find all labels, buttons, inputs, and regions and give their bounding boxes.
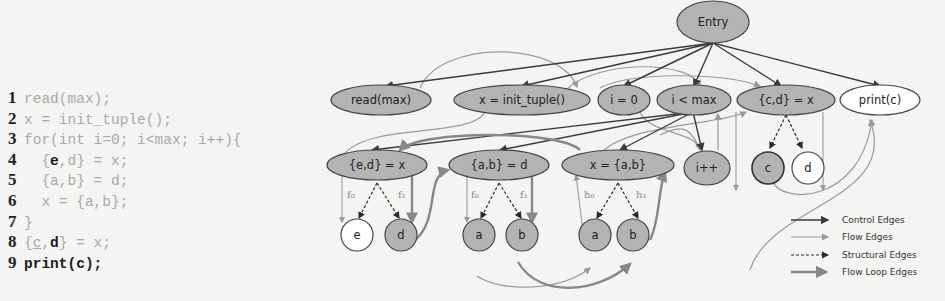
node-leaf-d[interactable]: d: [385, 219, 417, 251]
legend-flow-loop-edges: Flow Loop Edges: [791, 267, 917, 277]
svg-text:a: a: [591, 228, 598, 242]
svg-text:x = {a,b}: x = {a,b}: [590, 158, 646, 172]
legend: Control Edges Flow Edges Structural Edge…: [791, 215, 917, 277]
svg-text:{a,b} = d: {a,b} = d: [471, 158, 528, 172]
node-i-lt-max[interactable]: i < max: [657, 85, 731, 115]
node-leaf-b2[interactable]: b: [617, 219, 649, 251]
svg-text:{c,d} = x: {c,d} = x: [758, 93, 814, 107]
svg-text:h₀: h₀: [584, 189, 594, 200]
svg-text:Structural Edges: Structural Edges: [842, 250, 917, 260]
svg-text:f₁: f₁: [520, 189, 528, 200]
legend-flow-edges: Flow Edges: [791, 232, 893, 242]
svg-text:Flow Edges: Flow Edges: [842, 232, 893, 242]
node-ed-eq-x[interactable]: {e,d} = x: [327, 150, 427, 180]
node-i-inc[interactable]: i++: [684, 151, 730, 185]
legend-structural-edges: Structural Edges: [791, 250, 917, 260]
node-leaf-a2[interactable]: a: [579, 219, 611, 251]
svg-text:i = 0: i = 0: [610, 93, 637, 107]
legend-control-edges: Control Edges: [791, 215, 905, 225]
svg-text:print(c): print(c): [859, 93, 901, 107]
svg-text:Control Edges: Control Edges: [842, 215, 905, 225]
svg-text:Entry: Entry: [698, 15, 729, 29]
node-i-eq-0[interactable]: i = 0: [598, 85, 650, 115]
svg-text:b: b: [518, 228, 525, 242]
svg-text:d: d: [397, 228, 404, 242]
svg-text:b: b: [629, 228, 636, 242]
graph-diagram: f₀ f₁ f₀ f₁ h₀ h₁ f₀ f₁ Entry read(max) …: [0, 0, 945, 301]
node-print-c[interactable]: print(c): [840, 85, 920, 115]
svg-text:f₁: f₁: [398, 189, 406, 200]
node-ab-eq-d[interactable]: {a,b} = d: [449, 150, 549, 180]
svg-text:Flow Loop Edges: Flow Loop Edges: [842, 267, 917, 277]
svg-text:h₁: h₁: [636, 189, 646, 200]
svg-text:{e,d} = x: {e,d} = x: [349, 158, 406, 172]
svg-text:f₀: f₀: [471, 189, 479, 200]
svg-text:f₀: f₀: [347, 189, 355, 200]
node-read-max[interactable]: read(max): [331, 85, 431, 115]
node-leaf-b1[interactable]: b: [506, 219, 538, 251]
node-x-init-tuple[interactable]: x = init_tuple(): [454, 85, 590, 115]
svg-text:x = init_tuple(): x = init_tuple(): [479, 93, 565, 107]
svg-text:i < max: i < max: [671, 93, 716, 107]
svg-text:read(max): read(max): [351, 93, 411, 107]
node-leaf-d-right[interactable]: d: [792, 152, 824, 184]
svg-text:c: c: [765, 161, 771, 175]
svg-text:a: a: [475, 228, 482, 242]
node-entry[interactable]: Entry: [677, 1, 749, 43]
svg-text:i++: i++: [696, 161, 718, 175]
node-leaf-e[interactable]: e: [341, 219, 373, 251]
svg-text:d: d: [804, 161, 811, 175]
node-cd-eq-x[interactable]: {c,d} = x: [737, 85, 835, 115]
node-leaf-a1[interactable]: a: [463, 219, 495, 251]
node-x-eq-ab[interactable]: x = {a,b}: [562, 150, 674, 180]
node-leaf-c[interactable]: c: [752, 152, 784, 184]
svg-text:e: e: [353, 228, 360, 242]
